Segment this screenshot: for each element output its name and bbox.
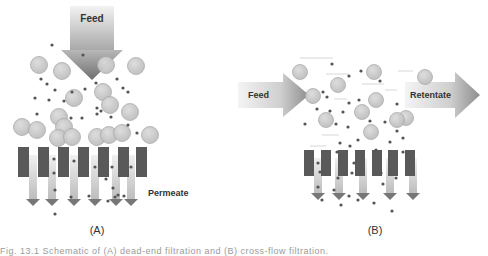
solute-dot bbox=[115, 77, 118, 80]
solute-dot bbox=[53, 188, 56, 191]
solute-dot bbox=[53, 212, 56, 215]
solute-dot bbox=[116, 193, 119, 196]
membrane-pore-wall bbox=[98, 147, 109, 177]
solute-dot bbox=[99, 109, 102, 112]
solute-dot bbox=[347, 74, 350, 77]
solute-dot bbox=[334, 122, 337, 125]
membrane-pore-wall bbox=[58, 147, 69, 177]
large-particle bbox=[355, 105, 370, 120]
solute-dot bbox=[320, 198, 323, 201]
large-particle bbox=[64, 129, 81, 146]
solute-dot bbox=[69, 116, 72, 119]
permeate-arrow-shaft bbox=[29, 155, 37, 199]
solute-dot bbox=[109, 115, 112, 118]
membrane-pore-wall bbox=[136, 147, 147, 177]
large-particle bbox=[142, 127, 159, 144]
membrane-pore-wall bbox=[78, 147, 89, 177]
permeate-arrow-shaft bbox=[48, 155, 56, 199]
solute-dot bbox=[33, 96, 36, 99]
panel-cross-flow-filtration: Feed Retentate (B) bbox=[238, 58, 480, 236]
solute-dot bbox=[357, 98, 360, 101]
membrane-pore-wall bbox=[355, 150, 365, 176]
solute-dot bbox=[80, 116, 83, 119]
permeate-arrowhead-icon bbox=[88, 199, 102, 206]
solute-dot bbox=[72, 159, 75, 162]
solute-dot bbox=[341, 110, 344, 113]
solute-dot bbox=[394, 176, 397, 179]
membrane-pore-wall bbox=[321, 150, 331, 176]
feed-label: Feed bbox=[248, 90, 269, 100]
solute-dot bbox=[87, 194, 90, 197]
membrane-pore-wall bbox=[304, 150, 314, 176]
solute-dot bbox=[50, 43, 53, 46]
solute-dot bbox=[328, 109, 331, 112]
large-particle bbox=[98, 57, 115, 74]
solute-dot bbox=[381, 182, 384, 185]
large-particle bbox=[102, 97, 119, 114]
solute-dot bbox=[52, 157, 55, 160]
large-particle bbox=[418, 70, 433, 85]
solute-dot bbox=[111, 186, 114, 189]
large-particle bbox=[14, 119, 31, 136]
solute-dot bbox=[336, 176, 339, 179]
membrane-pore-wall bbox=[405, 150, 415, 176]
membrane bbox=[18, 147, 147, 177]
solute-dot bbox=[35, 112, 38, 115]
solute-dot bbox=[94, 81, 97, 84]
large-particle bbox=[29, 122, 46, 139]
solute-dot bbox=[95, 106, 98, 109]
permeate-label: Permeate bbox=[148, 188, 189, 198]
solute-dot bbox=[126, 90, 129, 93]
solute-dot bbox=[395, 129, 398, 132]
large-particle bbox=[54, 63, 71, 80]
panel-label-b: (B) bbox=[368, 224, 383, 236]
solute-dot bbox=[379, 171, 382, 174]
solute-dot bbox=[359, 69, 362, 72]
permeate-arrow-shaft bbox=[91, 155, 99, 199]
membrane-pore-wall bbox=[38, 147, 49, 177]
solute-dot bbox=[315, 107, 318, 110]
permeate-arrowhead-icon bbox=[67, 199, 81, 206]
solute-dot bbox=[350, 171, 353, 174]
large-particle bbox=[114, 125, 131, 142]
solute-dot bbox=[401, 150, 404, 153]
solute-dot bbox=[316, 185, 319, 188]
solute-dot bbox=[338, 141, 341, 144]
solute-dot bbox=[47, 98, 50, 101]
large-particle bbox=[293, 65, 308, 80]
solute-dot bbox=[348, 144, 351, 147]
permeate-arrowhead-icon bbox=[332, 193, 346, 200]
permeate-arrowhead-icon bbox=[383, 193, 397, 200]
solute-dot bbox=[378, 79, 381, 82]
solute-dot bbox=[321, 90, 324, 93]
solute-dot bbox=[347, 194, 350, 197]
solute-dot bbox=[390, 209, 393, 212]
solute-dot bbox=[106, 199, 109, 202]
large-particle bbox=[128, 58, 145, 75]
panel-dead-end-filtration: Feed Permeate (A) bbox=[14, 6, 189, 236]
membrane-pore-wall bbox=[118, 147, 129, 177]
solute-dot bbox=[113, 195, 116, 198]
solute-dot bbox=[318, 170, 321, 173]
solute-dot bbox=[325, 95, 328, 98]
large-particle bbox=[390, 113, 405, 128]
solute-dot bbox=[303, 122, 306, 125]
solute-dot bbox=[104, 177, 107, 180]
membrane-pore-wall bbox=[388, 150, 398, 176]
solute-dot bbox=[330, 62, 333, 65]
solute-dot bbox=[316, 161, 319, 164]
permeate-arrowhead-icon bbox=[124, 199, 138, 206]
solute-dot bbox=[135, 131, 138, 134]
solute-dot bbox=[70, 90, 73, 93]
permeate-arrowhead-icon bbox=[45, 199, 59, 206]
solute-dot bbox=[332, 188, 335, 191]
membrane-pore-wall bbox=[18, 147, 29, 177]
solute-dot bbox=[45, 82, 48, 85]
large-particle bbox=[31, 57, 48, 74]
solute-dot bbox=[69, 195, 72, 198]
solute-dot bbox=[93, 165, 96, 168]
permeate-arrowhead-icon bbox=[109, 199, 123, 206]
solute-dot bbox=[356, 138, 359, 141]
solute-dot bbox=[346, 125, 349, 128]
